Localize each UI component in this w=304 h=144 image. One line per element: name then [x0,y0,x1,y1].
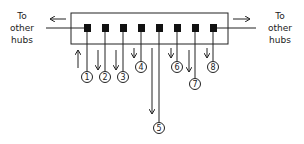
port-number: 7 [192,80,197,89]
left-label-line-3: hubs [11,35,33,45]
port-number: 4 [138,63,143,72]
port-square [138,24,145,32]
port-4: 4 [134,24,147,73]
port-square [156,24,163,32]
port-square [210,24,217,32]
port-square [120,24,127,32]
port-number: 8 [210,63,215,72]
port-2: 2 [98,24,111,83]
port-7: 7 [189,24,201,90]
right-label: To other hubs [268,11,292,45]
right-label-line-2: other [268,23,292,33]
port-5: 5 [152,24,165,134]
port-number: 3 [120,73,125,82]
port-square [102,24,109,32]
right-label-line-3: hubs [269,35,291,45]
port-number: 2 [102,73,107,82]
port-number: 1 [84,73,89,82]
hub-box [71,13,228,44]
right-label-line-1: To [274,11,285,21]
port-6: 6 [171,24,183,73]
left-label-line-1: To [16,11,27,21]
left-label-line-2: other [10,23,34,33]
port-number: 6 [174,63,179,72]
port-number: 5 [156,124,161,133]
port-1: 1 [78,24,93,83]
port-3: 3 [116,24,129,83]
port-8: 8 [207,24,219,73]
port-square [174,24,181,32]
left-label: To other hubs [10,11,34,45]
port-square [84,24,91,32]
port-square [192,24,199,32]
hub-diagram: To other hubs To other hubs 1 2 3 [0,0,304,144]
